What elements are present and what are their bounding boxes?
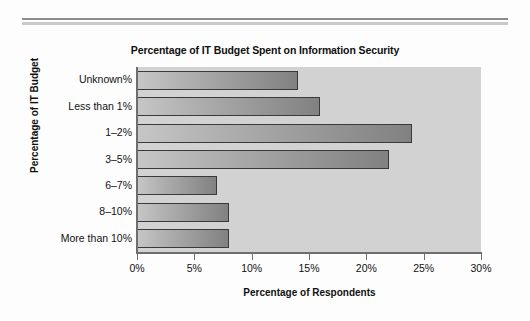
bar-row <box>137 226 481 252</box>
y-tick-label: 8–10% <box>6 205 132 217</box>
x-axis-title: Percentage of Respondents <box>137 287 482 298</box>
bar-row <box>137 93 481 119</box>
y-tick-label-group: Unknown%Less than 1%1–2%3–5%6–7%8–10%Mor… <box>0 67 132 252</box>
x-tick-mark <box>481 254 482 260</box>
x-tick-label: 10% <box>232 262 272 274</box>
y-tick-label: 1–2% <box>6 126 132 138</box>
bar <box>137 71 298 90</box>
bar-row <box>137 173 481 199</box>
bar <box>137 229 229 248</box>
x-tick-label: 0% <box>117 262 157 274</box>
bar <box>137 203 229 222</box>
x-tick-label: 5% <box>174 262 214 274</box>
x-tick-mark <box>252 254 253 260</box>
header-rule-dark <box>22 18 508 20</box>
bar-row <box>137 120 481 146</box>
x-tick-label: 25% <box>404 262 444 274</box>
bar <box>137 150 389 169</box>
x-tick-label: 20% <box>346 262 386 274</box>
x-tick-mark <box>366 254 367 260</box>
x-tick-mark <box>137 254 138 260</box>
chart-figure: Percentage of IT Budget Spent on Informa… <box>0 0 530 321</box>
bar-row <box>137 146 481 172</box>
bar <box>137 176 217 195</box>
y-tick-label: Less than 1% <box>6 100 132 112</box>
y-tick-label: 6–7% <box>6 179 132 191</box>
x-tick-group: 0%5%10%15%20%25%30% <box>137 254 482 284</box>
plot-area <box>137 67 481 252</box>
bar <box>137 97 320 116</box>
x-tick-mark <box>309 254 310 260</box>
header-rule-light <box>22 22 508 25</box>
chart-title: Percentage of IT Budget Spent on Informa… <box>0 44 530 56</box>
y-tick-label: 3–5% <box>6 153 132 165</box>
x-tick-label: 15% <box>289 262 329 274</box>
x-tick-label: 30% <box>461 262 501 274</box>
x-tick-mark <box>194 254 195 260</box>
bar-row <box>137 67 481 93</box>
y-tick-label: Unknown% <box>6 73 132 85</box>
x-tick-mark <box>424 254 425 260</box>
y-tick-label: More than 10% <box>6 232 132 244</box>
bar-row <box>137 199 481 225</box>
y-axis-line <box>136 67 138 254</box>
bar <box>137 124 412 143</box>
